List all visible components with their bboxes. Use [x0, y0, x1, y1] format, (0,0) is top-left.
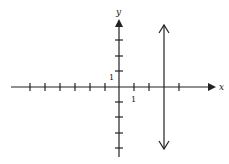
- y-axis-arrow-icon: [115, 19, 123, 27]
- coordinate-plane: x y 1 1: [0, 0, 229, 164]
- y-axis-label: y: [115, 7, 122, 17]
- x-axis-label: x: [219, 82, 224, 92]
- x-unit-label: 1: [131, 95, 136, 104]
- x-axis-arrow-icon: [208, 83, 216, 91]
- y-unit-label: 1: [109, 73, 114, 82]
